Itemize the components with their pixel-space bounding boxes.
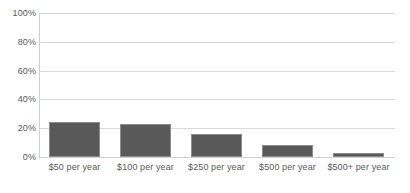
y-tick-label: 40% bbox=[2, 94, 36, 104]
bar-slot bbox=[191, 13, 242, 157]
bar-chart: 100% 80% 60% 40% 20% 0% bbox=[0, 0, 410, 193]
y-tick-label: 80% bbox=[2, 37, 36, 47]
x-label-100-per-year: $100 per year bbox=[110, 162, 181, 172]
x-label-50-per-year: $50 per year bbox=[39, 162, 110, 172]
bar-250-per-year bbox=[191, 134, 242, 157]
y-tick-label: 60% bbox=[2, 66, 36, 76]
x-axis-category-labels: $50 per year $100 per year $250 per year… bbox=[39, 162, 395, 184]
bars-group bbox=[39, 13, 395, 157]
bar-slot bbox=[262, 13, 313, 157]
bar-slot bbox=[49, 13, 100, 157]
y-tick-label: 0% bbox=[2, 152, 36, 162]
bar-100-per-year bbox=[120, 124, 171, 157]
bar-50-per-year bbox=[49, 122, 100, 157]
bar-500-per-year bbox=[262, 145, 313, 157]
bar-500-plus-per-year bbox=[333, 153, 384, 157]
bar-slot bbox=[120, 13, 171, 157]
gridline-0-baseline bbox=[39, 157, 395, 158]
y-tick-label: 20% bbox=[2, 123, 36, 133]
y-axis-tick-labels: 100% 80% 60% 40% 20% 0% bbox=[0, 0, 36, 193]
bar-slot bbox=[333, 13, 384, 157]
x-label-500-per-year: $500 per year bbox=[252, 162, 323, 172]
x-label-250-per-year: $250 per year bbox=[181, 162, 252, 172]
x-label-500-plus-per-year: $500+ per year bbox=[323, 162, 394, 172]
y-tick-label: 100% bbox=[2, 8, 36, 18]
